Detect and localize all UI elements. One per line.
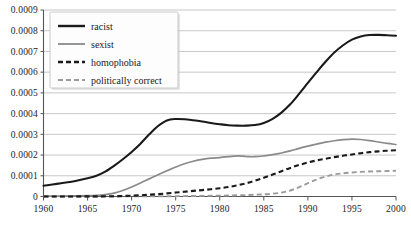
series-line-politically-correct: [44, 171, 397, 197]
y-tick-label: 0.0004: [11, 109, 38, 119]
x-axis-tick-labels: 196019651970197519801985199019952000: [34, 204, 406, 214]
y-tick-label: 0.0003: [11, 130, 38, 140]
y-tick-label: 0.0006: [11, 67, 38, 77]
y-tick-label: 0.0008: [11, 26, 38, 36]
x-tick-label: 1980: [210, 204, 230, 214]
chart-legend: racistsexisthomophobiapolitically correc…: [50, 12, 180, 90]
legend-label-sexist: sexist: [91, 39, 114, 50]
x-tick-label: 2000: [386, 204, 406, 214]
y-tick-label: 0.0001: [11, 171, 38, 181]
y-tick-label: 0.0007: [11, 47, 38, 57]
x-tick-label: 1960: [34, 204, 54, 214]
legend-label-politically-correct: politically correct: [91, 75, 162, 86]
legend-label-racist: racist: [91, 21, 113, 32]
line-chart-figure: 00.00010.00020.00030.00040.00050.00060.0…: [0, 0, 411, 230]
x-tick-label: 1975: [166, 204, 186, 214]
legend-label-homophobia: homophobia: [91, 57, 142, 68]
x-tick-label: 1995: [342, 204, 362, 214]
y-tick-label: 0.0005: [11, 88, 38, 98]
x-tick-label: 1985: [254, 204, 274, 214]
x-tick-label: 1965: [78, 204, 98, 214]
y-tick-label: 0.0002: [11, 150, 38, 160]
chart-canvas: 00.00010.00020.00030.00040.00050.00060.0…: [0, 0, 411, 230]
y-tick-label: 0: [33, 192, 38, 202]
x-tick-label: 1970: [122, 204, 142, 214]
y-tick-label: 0.0009: [11, 5, 38, 15]
y-axis-tick-labels: 00.00010.00020.00030.00040.00050.00060.0…: [11, 5, 44, 202]
x-tick-label: 1990: [298, 204, 318, 214]
